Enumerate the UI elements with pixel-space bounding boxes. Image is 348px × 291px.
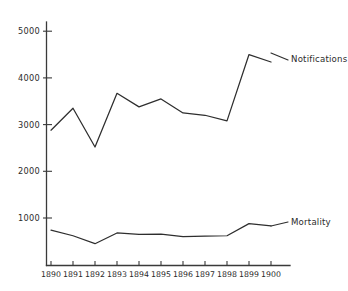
line-chart: 1000 2000 3000 4000 5000 1890 1891 1892 … bbox=[0, 0, 348, 291]
series-label-notifications: Notifications bbox=[291, 54, 348, 64]
y-axis-labels: 1000 2000 3000 4000 5000 bbox=[18, 26, 40, 223]
x-tick-label-1897: 1897 bbox=[195, 270, 215, 279]
y-tick-label-2000: 2000 bbox=[18, 166, 40, 176]
chart-canvas: 1000 2000 3000 4000 5000 1890 1891 1892 … bbox=[0, 0, 348, 291]
series-line-mortality bbox=[51, 224, 271, 244]
x-tick-label-1894: 1894 bbox=[129, 270, 149, 279]
notifications-leader-line bbox=[271, 53, 288, 60]
y-tick-label-3000: 3000 bbox=[18, 120, 40, 130]
series-label-mortality: Mortality bbox=[291, 217, 331, 227]
y-tick-label-1000: 1000 bbox=[18, 213, 40, 223]
x-tick-label-1899: 1899 bbox=[239, 270, 259, 279]
x-tick-label-1895: 1895 bbox=[151, 270, 171, 279]
mortality-leader-line bbox=[271, 222, 288, 226]
x-tick-label-1892: 1892 bbox=[85, 270, 105, 279]
x-tick-label-1890: 1890 bbox=[41, 270, 61, 279]
x-tick-label-1893: 1893 bbox=[107, 270, 127, 279]
x-tick-label-1896: 1896 bbox=[173, 270, 193, 279]
y-tick-label-4000: 4000 bbox=[18, 73, 40, 83]
x-tick-label-1900: 1900 bbox=[261, 270, 281, 279]
x-axis-labels: 1890 1891 1892 1893 1894 1895 1896 1897 … bbox=[41, 270, 281, 279]
x-tick-label-1898: 1898 bbox=[217, 270, 237, 279]
x-tick-label-1891: 1891 bbox=[63, 270, 83, 279]
y-axis-ticks bbox=[43, 31, 52, 218]
series-line-notifications bbox=[51, 55, 271, 147]
y-tick-label-5000: 5000 bbox=[18, 26, 40, 36]
